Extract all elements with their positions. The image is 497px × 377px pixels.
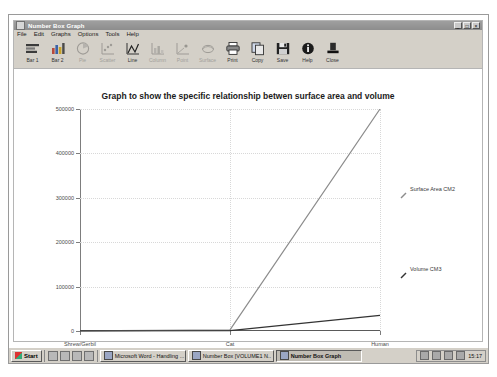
legend-line-icon: [400, 265, 407, 272]
window-title: Number Box Graph: [28, 22, 454, 30]
toolbar-button-close[interactable]: Close: [320, 41, 345, 64]
toolbar-button-surface[interactable]: Surface: [195, 41, 220, 64]
task-button-word[interactable]: Microsoft Word - Handling ...: [100, 350, 186, 362]
chart-title: Graph to show the specific relationship …: [14, 91, 482, 101]
save-icon: [275, 41, 291, 56]
bar1-icon: [25, 41, 41, 56]
toolbar-label-copy: Copy: [252, 57, 264, 64]
menu-item-help[interactable]: Help: [126, 30, 138, 39]
y-axis-tick-label: 400000: [14, 150, 74, 156]
antivirus-icon[interactable]: [456, 351, 465, 360]
toolbar-button-copy[interactable]: Copy: [245, 41, 270, 64]
media-player-icon[interactable]: [84, 351, 94, 361]
legend-label: Volume CM3: [410, 266, 442, 272]
outlook-express-icon[interactable]: [72, 351, 82, 361]
scatter-icon: [100, 41, 116, 56]
toolbar-label-print: Print: [227, 57, 237, 64]
close-button[interactable]: ×: [472, 22, 480, 29]
start-button-label: Start: [24, 353, 38, 359]
printer-icon[interactable]: [444, 351, 453, 360]
pie-icon: [75, 41, 91, 56]
number-box-graph-icon: [280, 351, 289, 360]
y-axis-tick-label: 0: [14, 328, 74, 334]
taskbar: Start Microsoft Word - Handling ... Numb…: [9, 347, 488, 363]
toolbar-button-bar2[interactable]: Bar 2: [45, 41, 70, 64]
legend-entry: Surface Area CM2: [400, 185, 455, 192]
print-icon: [225, 41, 241, 56]
menu-item-tools[interactable]: Tools: [105, 30, 119, 39]
task-button-label: Microsoft Word - Handling ...: [115, 353, 185, 359]
line-icon: [125, 41, 141, 56]
toolbar-button-bar1[interactable]: Bar 1: [20, 41, 45, 64]
y-axis-tick-label: 300000: [14, 195, 74, 201]
toolbar-label-scatter: Scatter: [100, 57, 116, 64]
toolbar-label-point: Point: [177, 57, 188, 64]
y-axis-tick-label: 100000: [14, 284, 74, 290]
word-document-icon: [104, 351, 113, 360]
start-button[interactable]: Start: [11, 350, 42, 362]
bar2-icon: [50, 41, 66, 56]
windows-flag-icon: [15, 352, 22, 359]
show-desktop-icon[interactable]: [48, 351, 58, 361]
toolbar-button-line[interactable]: Line: [120, 41, 145, 64]
number-box-graph-window: Number Box Graph _ □ × File Edit Graphs …: [13, 20, 483, 342]
legend-entry: Volume CM3: [400, 265, 442, 272]
menu-item-options[interactable]: Options: [78, 30, 99, 39]
menu-item-edit[interactable]: Edit: [34, 30, 44, 39]
window-controls: _ □ ×: [454, 22, 480, 29]
y-axis-tick-label: 200000: [14, 239, 74, 245]
surface-icon: [200, 41, 216, 56]
system-tray: 15:17: [416, 350, 486, 362]
toolbar-label-close: Close: [326, 57, 339, 64]
window-system-icon[interactable]: [16, 21, 25, 30]
number-box-icon: [192, 351, 201, 360]
toolbar-label-line: Line: [128, 57, 137, 64]
series-line: [80, 109, 380, 331]
toolbar-button-pie[interactable]: Pie: [70, 41, 95, 64]
close-icon: [325, 41, 341, 56]
y-axis-tick-label: 500000: [14, 106, 74, 112]
toolbar-button-scatter[interactable]: Scatter: [95, 41, 120, 64]
help-icon: [300, 41, 316, 56]
toolbar-label-bar2: Bar 2: [52, 57, 64, 64]
toolbar-label-bar1: Bar 1: [27, 57, 39, 64]
window-titlebar[interactable]: Number Box Graph _ □ ×: [13, 20, 483, 30]
task-button-label: Number Box [VOLUME1 N..: [203, 353, 271, 359]
menu-item-graphs[interactable]: Graphs: [51, 30, 71, 39]
menubar: File Edit Graphs Options Tools Help: [13, 30, 483, 39]
toolbar-button-print[interactable]: Print: [220, 41, 245, 64]
series-line: [80, 315, 380, 331]
taskbar-clock[interactable]: 15:17: [468, 353, 482, 359]
column-icon: [150, 41, 166, 56]
toolbar-label-save: Save: [277, 57, 288, 64]
toolbar: Bar 1 Bar 2: [13, 39, 483, 69]
point-icon: [175, 41, 191, 56]
toolbar-label-help: Help: [302, 57, 312, 64]
task-button-number-box[interactable]: Number Box [VOLUME1 N..: [188, 350, 274, 362]
toolbar-label-pie: Pie: [79, 57, 86, 64]
network-icon[interactable]: [432, 351, 441, 360]
series-lines: [80, 109, 382, 333]
chart-canvas: Graph to show the specific relationship …: [13, 69, 483, 342]
task-button-label: Number Box Graph: [291, 353, 341, 359]
toolbar-button-point[interactable]: Point: [170, 41, 195, 64]
legend-label: Surface Area CM2: [410, 186, 455, 192]
menu-item-file[interactable]: File: [17, 30, 27, 39]
toolbar-button-help[interactable]: Help: [295, 41, 320, 64]
toolbar-button-save[interactable]: Save: [270, 41, 295, 64]
toolbar-button-column[interactable]: Column: [145, 41, 170, 64]
toolbar-label-column: Column: [149, 57, 166, 64]
legend-line-icon: [400, 185, 407, 192]
plot-area: 0100000200000300000400000500000Shrew/Ger…: [80, 109, 380, 331]
task-button-number-box-graph[interactable]: Number Box Graph: [276, 350, 362, 362]
desktop-background: Number Box Graph _ □ × File Edit Graphs …: [8, 14, 489, 364]
maximize-button[interactable]: □: [463, 22, 471, 29]
toolbar-label-surface: Surface: [199, 57, 216, 64]
volume-icon[interactable]: [420, 351, 429, 360]
copy-icon: [250, 41, 266, 56]
internet-explorer-icon[interactable]: [60, 351, 70, 361]
minimize-button[interactable]: _: [454, 22, 462, 29]
quick-launch-bar: [44, 350, 98, 362]
